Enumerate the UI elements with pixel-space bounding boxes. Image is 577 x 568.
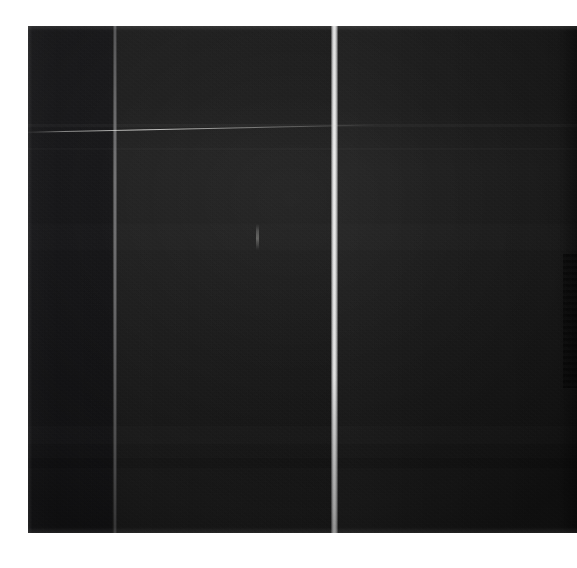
dim-gray-vertical-seam: [113, 26, 117, 533]
bright-white-vertical-seam: [331, 26, 338, 533]
middle-panel: [117, 26, 331, 533]
right-panel: [338, 26, 577, 533]
left-panel: [28, 26, 112, 533]
image-canvas: [0, 0, 577, 568]
photograph-plate: [28, 26, 577, 533]
